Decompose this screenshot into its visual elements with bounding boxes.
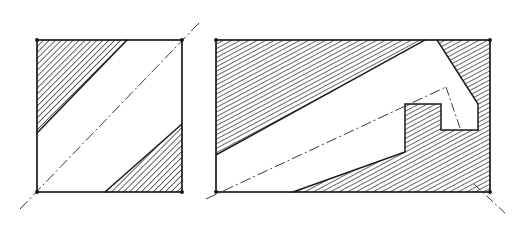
left-corner-dot-tr — [180, 38, 184, 42]
right-lower-middle-hatched-region — [293, 104, 490, 192]
technical-drawing — [0, 0, 521, 228]
right-corner-dot-tl — [214, 38, 218, 42]
right-corner-dot-bl — [214, 190, 218, 194]
left-figure — [20, 23, 199, 209]
right-figure — [206, 38, 507, 215]
left-corner-dot-bl — [35, 190, 39, 194]
right-corner-dot-tr — [488, 38, 492, 42]
left-corner-dot-br — [180, 190, 184, 194]
right-corner-dot-br — [488, 190, 492, 194]
left-corner-dot-tl — [35, 38, 39, 42]
right-notch-vertical-centerline — [446, 87, 460, 128]
drawing-canvas — [0, 0, 521, 228]
